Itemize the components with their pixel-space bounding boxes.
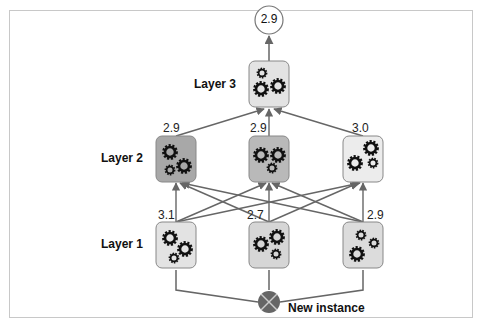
predictor-layer1-1 xyxy=(156,222,196,268)
input-label: New instance xyxy=(288,301,365,315)
predictor-layer2-2 xyxy=(249,136,289,182)
predictor-layer2-1 xyxy=(156,136,196,182)
layer2-score-1: 2.9 xyxy=(163,121,180,135)
layer3-label: Layer 3 xyxy=(194,77,236,91)
stacking-diagram xyxy=(0,0,484,326)
layer1-to-layer2-arrows xyxy=(176,183,363,222)
predictor-layer1-3 xyxy=(343,222,383,268)
layer2-to-layer3-arrows xyxy=(176,109,363,136)
predictor-layer2-3 xyxy=(343,136,383,182)
layer1-label: Layer 1 xyxy=(101,237,143,251)
layer2-label: Layer 2 xyxy=(101,151,143,165)
layer2-score-2: 2.9 xyxy=(250,121,267,135)
layer1-score-2: 2.7 xyxy=(247,208,264,222)
layer1-score-3: 2.9 xyxy=(367,208,384,222)
predictor-layer3 xyxy=(249,61,289,107)
layer1-score-1: 3.1 xyxy=(158,208,175,222)
predictor-layer1-2 xyxy=(249,222,289,268)
layer2-score-3: 3.0 xyxy=(352,121,369,135)
output-value: 2.9 xyxy=(258,12,280,26)
input-node-icon xyxy=(258,291,280,313)
